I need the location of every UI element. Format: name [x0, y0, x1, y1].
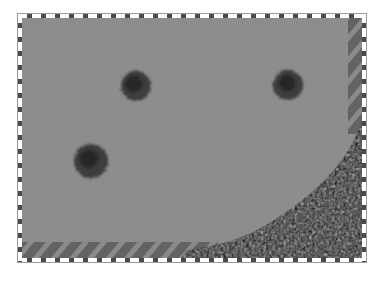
tree-1[interactable] [121, 71, 151, 101]
tree-2[interactable] [273, 70, 303, 100]
border-bottom [18, 258, 366, 262]
border-right [362, 14, 366, 262]
tree-core-icon [279, 75, 295, 91]
field-layer [18, 14, 366, 262]
tree-3[interactable] [74, 144, 108, 178]
map-frame [17, 13, 367, 263]
tree-core-icon [80, 150, 98, 168]
border-left [18, 14, 22, 262]
map-viewport [0, 0, 388, 283]
map-canvas[interactable] [18, 14, 366, 262]
tree-core-icon [126, 76, 142, 92]
border-top [18, 14, 366, 18]
